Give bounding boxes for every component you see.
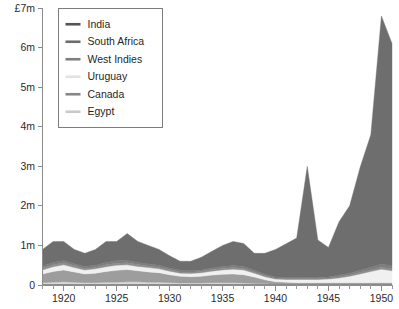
stacked-area-chart: 01m2m3m4m5m6m£7m 19201925193019351940194…: [0, 0, 399, 309]
legend-item-label: Uruguay: [88, 70, 128, 82]
x-axis-labels: 1920192519301935194019451950: [52, 292, 393, 304]
y-tick-label: 0: [29, 279, 35, 291]
y-tick-label: 6m: [20, 41, 35, 53]
y-axis-labels: 01m2m3m4m5m6m£7m: [15, 2, 36, 291]
x-tick-label: 1930: [158, 292, 182, 304]
y-tick-label: 3m: [20, 160, 35, 172]
x-tick-label: 1950: [370, 292, 394, 304]
legend-item-label: South Africa: [88, 35, 145, 47]
x-tick-label: 1945: [317, 292, 341, 304]
legend-item-label: Egypt: [88, 105, 115, 117]
x-tick-label: 1925: [105, 292, 129, 304]
chart-legend: IndiaSouth AfricaWest IndiesUruguayCanad…: [59, 9, 163, 128]
y-tick-label: £7m: [15, 2, 36, 14]
legend-item-label: West Indies: [88, 53, 143, 65]
x-tick-label: 1920: [52, 292, 76, 304]
legend-item-label: India: [88, 18, 111, 30]
x-tick-label: 1935: [211, 292, 235, 304]
x-tick-label: 1940: [264, 292, 288, 304]
y-tick-label: 1m: [20, 239, 35, 251]
y-tick-label: 2m: [20, 199, 35, 211]
y-axis-ticks: [38, 8, 43, 285]
chart-canvas: 01m2m3m4m5m6m£7m 19201925193019351940194…: [0, 0, 399, 309]
y-tick-label: 4m: [20, 120, 35, 132]
y-tick-label: 5m: [20, 81, 35, 93]
legend-item-label: Canada: [88, 88, 125, 100]
x-axis-ticks: [43, 285, 393, 291]
